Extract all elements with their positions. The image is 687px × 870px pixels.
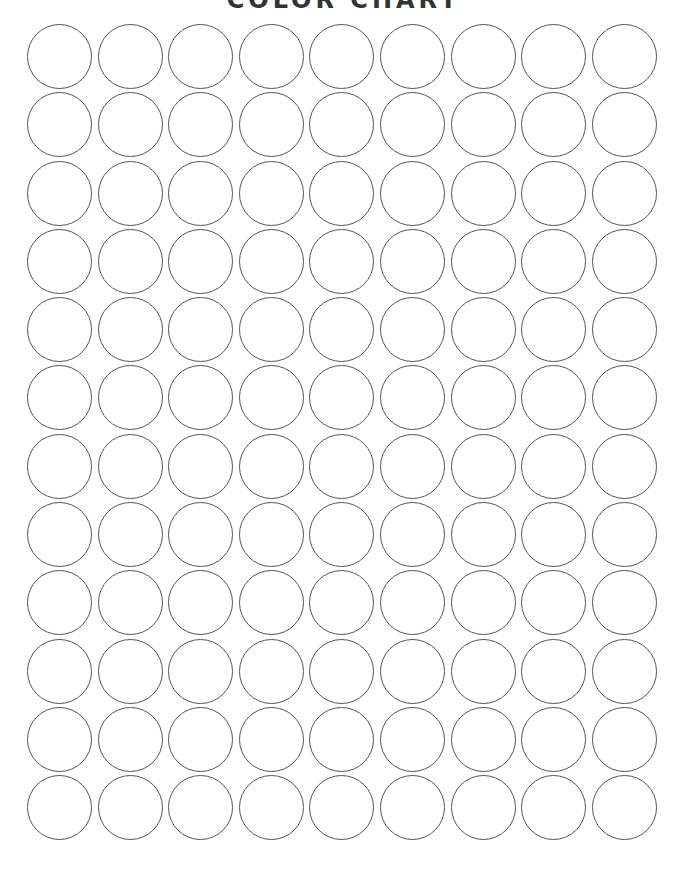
color-swatch-circle: [98, 161, 163, 226]
color-swatch-circle: [451, 365, 516, 430]
color-swatch-circle: [521, 570, 586, 635]
color-swatch-circle: [592, 161, 657, 226]
color-swatch-circle: [451, 434, 516, 499]
color-swatch-circle: [451, 775, 516, 840]
color-swatch-circle: [27, 229, 92, 294]
color-swatch-circle: [98, 24, 163, 89]
color-swatch-circle: [168, 502, 233, 567]
color-swatch-circle: [168, 229, 233, 294]
color-swatch-circle: [521, 434, 586, 499]
color-swatch-circle: [592, 297, 657, 362]
color-swatch-circle: [98, 365, 163, 430]
color-swatch-circle: [592, 24, 657, 89]
color-swatch-circle: [98, 297, 163, 362]
color-swatch-circle: [592, 570, 657, 635]
color-swatch-circle: [27, 92, 92, 157]
color-swatch-circle: [380, 92, 445, 157]
color-swatch-circle: [592, 639, 657, 704]
color-swatch-circle: [451, 92, 516, 157]
color-swatch-circle: [27, 161, 92, 226]
color-swatch-circle: [592, 92, 657, 157]
color-swatch-circle: [521, 639, 586, 704]
color-swatch-circle: [521, 502, 586, 567]
color-swatch-circle: [27, 502, 92, 567]
color-swatch-circle: [380, 639, 445, 704]
color-swatch-circle: [309, 707, 374, 772]
color-swatch-circle: [380, 229, 445, 294]
color-swatch-circle: [168, 24, 233, 89]
color-swatch-circle: [451, 639, 516, 704]
color-swatch-circle: [451, 707, 516, 772]
color-swatch-circle: [309, 92, 374, 157]
color-swatch-circle: [592, 775, 657, 840]
color-swatch-circle: [309, 365, 374, 430]
color-swatch-circle: [27, 365, 92, 430]
color-swatch-circle: [592, 365, 657, 430]
color-swatch-circle: [309, 502, 374, 567]
color-swatch-circle: [168, 92, 233, 157]
color-swatch-circle: [309, 24, 374, 89]
color-swatch-circle: [239, 365, 304, 430]
color-swatch-circle: [168, 434, 233, 499]
color-swatch-circle: [592, 707, 657, 772]
color-swatch-circle: [380, 434, 445, 499]
color-swatch-circle: [451, 297, 516, 362]
color-swatch-circle: [239, 775, 304, 840]
color-swatch-circle: [27, 24, 92, 89]
color-swatch-circle: [592, 434, 657, 499]
color-swatch-circle: [239, 229, 304, 294]
color-swatch-circle: [27, 570, 92, 635]
color-swatch-circle: [98, 502, 163, 567]
color-swatch-circle: [239, 570, 304, 635]
color-swatch-circle: [239, 434, 304, 499]
color-swatch-circle: [592, 229, 657, 294]
color-swatch-circle: [239, 92, 304, 157]
color-swatch-circle: [380, 297, 445, 362]
color-swatch-circle: [451, 24, 516, 89]
color-swatch-circle: [27, 707, 92, 772]
color-swatch-circle: [98, 92, 163, 157]
color-swatch-circle: [168, 639, 233, 704]
color-swatch-circle: [380, 502, 445, 567]
color-swatch-circle: [380, 24, 445, 89]
color-swatch-circle: [239, 297, 304, 362]
page-title: COLOR CHART: [0, 0, 687, 14]
color-swatch-circle: [239, 502, 304, 567]
color-swatch-circle: [521, 775, 586, 840]
color-swatch-circle: [98, 229, 163, 294]
color-swatch-circle: [309, 161, 374, 226]
color-swatch-circle: [239, 24, 304, 89]
color-swatch-circle: [168, 365, 233, 430]
color-swatch-circle: [380, 570, 445, 635]
color-swatch-circle: [521, 24, 586, 89]
color-swatch-circle: [239, 639, 304, 704]
color-swatch-circle: [380, 775, 445, 840]
swatch-grid: [27, 24, 658, 840]
color-swatch-circle: [168, 775, 233, 840]
color-swatch-circle: [592, 502, 657, 567]
color-swatch-circle: [309, 639, 374, 704]
color-swatch-circle: [521, 365, 586, 430]
color-swatch-circle: [309, 434, 374, 499]
color-swatch-circle: [521, 161, 586, 226]
color-swatch-circle: [239, 707, 304, 772]
color-swatch-circle: [309, 570, 374, 635]
color-swatch-circle: [27, 639, 92, 704]
color-swatch-circle: [521, 229, 586, 294]
color-swatch-circle: [98, 639, 163, 704]
color-swatch-circle: [521, 92, 586, 157]
color-swatch-circle: [239, 161, 304, 226]
color-swatch-circle: [27, 434, 92, 499]
color-swatch-circle: [168, 161, 233, 226]
color-swatch-circle: [309, 775, 374, 840]
color-swatch-circle: [27, 297, 92, 362]
color-swatch-circle: [451, 161, 516, 226]
color-swatch-circle: [98, 775, 163, 840]
color-swatch-circle: [521, 297, 586, 362]
color-swatch-circle: [168, 570, 233, 635]
color-swatch-circle: [380, 365, 445, 430]
color-swatch-circle: [168, 297, 233, 362]
color-swatch-circle: [168, 707, 233, 772]
color-swatch-circle: [309, 229, 374, 294]
color-swatch-circle: [521, 707, 586, 772]
